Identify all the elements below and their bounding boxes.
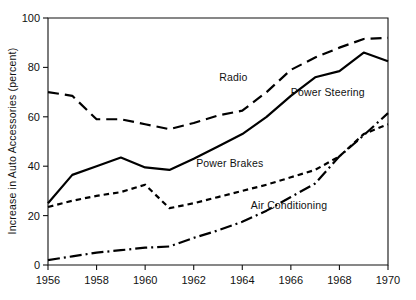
x-tick-label: 1968	[327, 274, 351, 286]
x-tick-label: 1962	[181, 274, 205, 286]
x-tick-label: 1956	[36, 274, 60, 286]
series-label-power-steering: Power Steering	[291, 86, 365, 98]
series-label-power-brakes: Power Brakes	[196, 157, 263, 169]
y-tick-label: 100	[22, 12, 40, 24]
y-tick-label: 80	[28, 61, 40, 73]
y-axis-title: Increase in Auto Accessories (percent)	[6, 48, 18, 235]
series-label-air-conditioning: Air Conditioning	[251, 199, 328, 211]
auto-accessories-line-chart: 020406080100 195619581960196219641966196…	[0, 0, 416, 300]
chart-background	[0, 0, 416, 300]
x-tick-label: 1960	[133, 274, 157, 286]
y-tick-label: 0	[34, 259, 40, 271]
y-tick-label: 40	[28, 160, 40, 172]
x-tick-label: 1964	[230, 274, 254, 286]
chart-container: 020406080100 195619581960196219641966196…	[0, 0, 416, 300]
y-tick-label: 20	[28, 210, 40, 222]
x-tick-label: 1958	[84, 274, 108, 286]
x-tick-label: 1970	[376, 274, 400, 286]
y-tick-label: 60	[28, 111, 40, 123]
x-tick-label: 1966	[279, 274, 303, 286]
series-label-radio: Radio	[219, 71, 247, 83]
